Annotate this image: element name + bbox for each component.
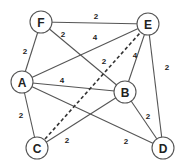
edge-weight-label: 2 [61, 30, 66, 39]
edge-weight-label: 2 [94, 12, 99, 21]
edge-weight-label: 4 [93, 33, 98, 42]
node-c: C [26, 137, 48, 159]
edge-weight-label: 4 [133, 51, 138, 60]
edge-weight-label: 2 [124, 137, 129, 146]
edge-weight-label: 2 [102, 57, 107, 66]
edge-a-d [22, 82, 163, 148]
edge-c-b [37, 92, 125, 148]
node-b: B [114, 81, 136, 103]
edge-a-b [22, 82, 125, 92]
weighted-graph: 222442222422 FEABCD [0, 0, 184, 165]
node-label: F [37, 16, 44, 30]
edge-weight-label: 4 [60, 76, 65, 85]
edge-f-e [41, 22, 148, 24]
node-label: C [33, 142, 42, 156]
edge-weight-label: 2 [165, 63, 170, 72]
edge-weight-label: 2 [23, 47, 28, 56]
node-a: A [11, 71, 33, 93]
node-label: D [159, 142, 168, 156]
node-e: E [137, 13, 159, 35]
node-f: F [30, 11, 52, 33]
node-label: A [18, 76, 27, 90]
edge-weight-label: 2 [65, 136, 70, 145]
node-label: E [144, 18, 152, 32]
node-d: D [152, 137, 174, 159]
edge-f-b [41, 22, 125, 92]
edge-weight-label: 2 [19, 111, 24, 120]
edge-weight-label: 2 [146, 112, 151, 121]
node-label: B [121, 86, 130, 100]
